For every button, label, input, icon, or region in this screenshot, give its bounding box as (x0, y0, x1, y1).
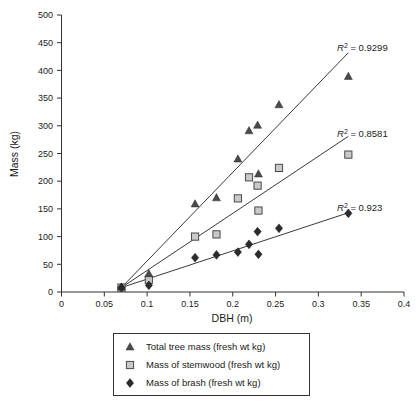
x-tick-label: 0 (59, 299, 64, 309)
x-tick-label: 0.1 (141, 299, 154, 309)
legend-item[interactable]: Mass of brash (fresh wt kg) (126, 377, 260, 388)
marker-square (255, 207, 262, 214)
y-tick-label: 350 (38, 93, 53, 103)
x-tick-label: 0.05 (96, 299, 114, 309)
y-axis-title: Mass (kg) (8, 131, 20, 177)
x-tick-label: 0.15 (181, 299, 199, 309)
marker-square (345, 151, 352, 158)
marker-square (275, 164, 282, 171)
marker-square (254, 182, 261, 189)
chart-figure: 050100150200250300350400450500 00.050.10… (0, 0, 416, 407)
x-tick-label: 0.25 (267, 299, 285, 309)
y-tick-label: 250 (38, 149, 53, 159)
legend-item[interactable]: Total tree mass (fresh wt kg) (126, 341, 265, 352)
x-tick-label: 0.2 (226, 299, 239, 309)
marker-square (213, 231, 220, 238)
y-tick-label: 150 (38, 204, 53, 214)
legend-item-label: Total tree mass (fresh wt kg) (146, 341, 265, 352)
y-tick-label: 0 (48, 287, 53, 297)
y-tick-label: 500 (38, 10, 53, 20)
y-tick-label: 450 (38, 38, 53, 48)
legend-item[interactable]: Mass of stemwood (fresh wt kg) (126, 359, 280, 370)
y-tick-label: 100 (38, 232, 53, 242)
x-tick-label: 0.4 (398, 299, 411, 309)
scatter-plot: 050100150200250300350400450500 00.050.10… (0, 0, 416, 407)
marker-square (245, 174, 252, 181)
marker-square (191, 233, 198, 240)
y-tick-label: 200 (38, 176, 53, 186)
legend-item-label: Mass of brash (fresh wt kg) (146, 377, 261, 388)
x-tick-label: 0.3 (312, 299, 325, 309)
marker-square (234, 195, 241, 202)
y-tick-label: 300 (38, 121, 53, 131)
y-tick-label: 400 (38, 66, 53, 76)
x-tick-label: 0.35 (352, 299, 370, 309)
y-tick-label: 50 (43, 260, 53, 270)
x-axis-title: DBH (m) (212, 312, 253, 324)
legend-item-label: Mass of stemwood (fresh wt kg) (146, 359, 280, 370)
r2-brash: R2 = 0.923 (337, 202, 382, 214)
marker-square (126, 361, 133, 368)
